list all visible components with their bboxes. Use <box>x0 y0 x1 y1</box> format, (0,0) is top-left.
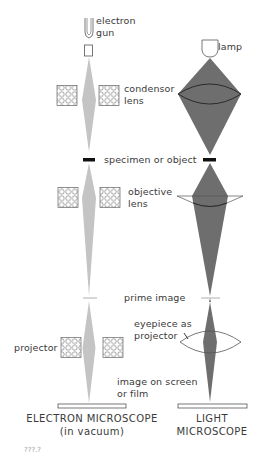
label-projector: projector <box>14 342 58 353</box>
electron-column <box>57 18 126 408</box>
label-screen-2: or film <box>117 388 148 399</box>
electron-beam-objective <box>82 163 96 296</box>
label-prime-image: prime image <box>124 292 185 303</box>
caption-electron-2: (in vacuum) <box>22 426 162 438</box>
caption-light-1: LIGHT <box>172 413 252 425</box>
label-eyepiece-2: projector <box>134 330 178 341</box>
electron-beam-condenser <box>82 57 96 152</box>
caption-electron-1: ELECTRON MICROSCOPE <box>22 413 162 425</box>
light-column <box>177 40 247 408</box>
light-screen-icon <box>178 404 247 408</box>
electron-specimen-icon <box>83 158 95 162</box>
label-screen-1: image on screen <box>117 376 198 387</box>
light-specimen-icon <box>203 158 216 162</box>
label-specimen: specimen or object <box>104 154 197 165</box>
caption-light-2: MICROSCOPE <box>172 426 252 438</box>
label-condenser-1: condensor <box>124 83 175 94</box>
label-eyepiece-1: eyepiece as <box>134 318 192 329</box>
electron-beam-projector <box>83 301 96 403</box>
label-objective-2: lens <box>128 198 148 209</box>
label-condenser-2: lens <box>124 95 144 106</box>
label-objective-1: objective <box>128 186 172 197</box>
label-electron-gun-2: gun <box>96 27 114 38</box>
label-electron-gun-1: electron <box>96 15 136 26</box>
lamp-icon <box>202 40 218 57</box>
footer-text: ???.? <box>24 446 41 453</box>
label-lamp: lamp <box>218 41 242 52</box>
anode-icon <box>85 45 93 56</box>
light-beam-eyepiece <box>203 302 217 402</box>
light-beam-objective <box>192 163 228 296</box>
light-beam-condenser <box>178 58 241 155</box>
electron-screen-icon <box>58 404 126 408</box>
